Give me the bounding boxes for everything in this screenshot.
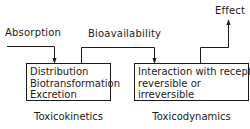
toxicodynamics-caption: Toxicodynamics bbox=[134, 111, 249, 122]
box-line: reversible or bbox=[138, 78, 245, 90]
bioavailability-label: Bioavailability bbox=[88, 28, 161, 39]
arrow-up-icon bbox=[227, 19, 231, 25]
effect-label: Effect bbox=[215, 5, 245, 16]
toxicokinetics-caption: Toxicokinetics bbox=[26, 111, 111, 122]
box-line: Excretion bbox=[30, 89, 107, 101]
box-line: Biotransformation bbox=[30, 78, 107, 90]
absorption-connector bbox=[7, 47, 55, 61]
box-line: Interaction with receptor, bbox=[138, 66, 245, 78]
box-line: Distribution bbox=[30, 66, 107, 78]
toxicokinetics-box: Distribution Biotransformation Excretion bbox=[26, 63, 111, 101]
toxicodynamics-box: Interaction with receptor, reversible or… bbox=[134, 63, 249, 101]
absorption-label: Absorption bbox=[5, 27, 61, 38]
effect-connector bbox=[201, 23, 229, 64]
bioavailability-connector bbox=[82, 48, 155, 65]
box-line: irreversible bbox=[138, 89, 245, 101]
